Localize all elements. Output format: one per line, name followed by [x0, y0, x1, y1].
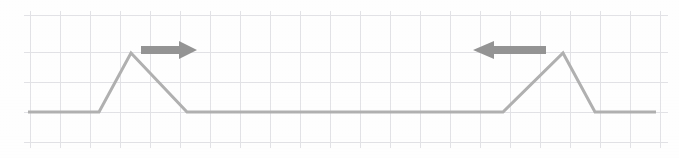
- waveform-figure: [0, 0, 679, 158]
- waveform-canvas: [0, 0, 679, 158]
